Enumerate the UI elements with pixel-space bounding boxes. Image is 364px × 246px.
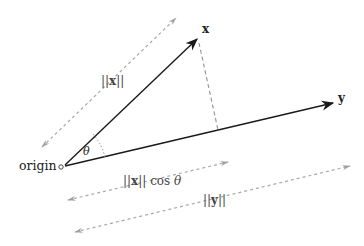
x-vector-label: x bbox=[202, 23, 209, 35]
angle-arc bbox=[93, 134, 105, 158]
norm-x-bar-left: || bbox=[101, 74, 109, 88]
norm-x-label: ||x|| bbox=[101, 75, 124, 87]
projection-cos: || cos bbox=[138, 174, 174, 188]
perpendicular-line bbox=[199, 43, 218, 130]
diagram-canvas bbox=[0, 0, 364, 246]
norm-x-bar-right: || bbox=[116, 74, 124, 88]
y-vector-label: y bbox=[338, 92, 345, 104]
norm-y-bar-right: || bbox=[218, 193, 226, 207]
projection-label: ||x|| cos θ bbox=[123, 175, 181, 187]
norm-y-label: ||y|| bbox=[203, 194, 226, 206]
origin-point-icon bbox=[59, 165, 63, 169]
theta-label: θ bbox=[83, 146, 90, 157]
norm-y-bar-left: || bbox=[203, 193, 211, 207]
origin-label: origin bbox=[19, 160, 57, 173]
projection-bar-left: || bbox=[123, 174, 131, 188]
projection-theta: θ bbox=[174, 174, 181, 188]
